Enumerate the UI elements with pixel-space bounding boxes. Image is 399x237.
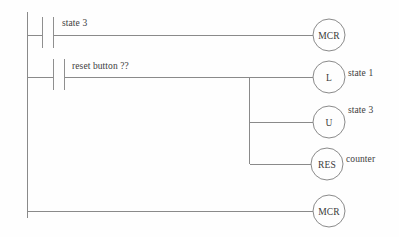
rung-2-coil-latch-label: state 1 [348,69,373,79]
rung-2: L U RES [28,59,346,180]
diagram-canvas: MCR L U RES [0,0,399,237]
rung-1-contact-label: state 3 [62,19,87,29]
rung-1-coil-mcr-symbol: MCR [318,31,340,41]
rung-3-coil-mcr-symbol: MCR [318,207,340,217]
rung-2-coil-unlatch-label: state 3 [348,106,373,116]
rung-2-coil-latch-symbol: L [326,73,332,83]
ladder-logic-diagram: MCR L U RES [0,0,399,237]
rung-3: MCR [28,195,346,227]
rung-2-coil-res-label: counter [346,155,375,165]
rung-2-coil-unlatch-symbol: U [325,118,332,128]
rung-2-contact-label: reset button ?? [72,62,129,72]
rung-2-coil-res-symbol: RES [318,160,336,170]
